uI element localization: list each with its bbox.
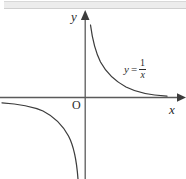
fraction: 1 x <box>139 58 146 80</box>
fraction-denominator: x <box>139 70 145 81</box>
equation-annotation: y = 1 x <box>124 58 146 80</box>
fraction-numerator: 1 <box>139 58 146 69</box>
x-axis-arrowhead <box>177 93 186 102</box>
origin-label: O <box>72 99 81 111</box>
equals-sign: = <box>131 64 137 75</box>
y-axis-arrowhead-shape <box>81 10 90 20</box>
x-axis-label: x <box>169 103 175 116</box>
equation-left-side: y <box>124 64 129 75</box>
hyperbola-branch-quadrant-3 <box>2 103 78 179</box>
function-graph-figure: y x O y = 1 x <box>0 0 186 179</box>
cartesian-plot <box>0 0 186 179</box>
y-axis-label: y <box>71 10 77 23</box>
